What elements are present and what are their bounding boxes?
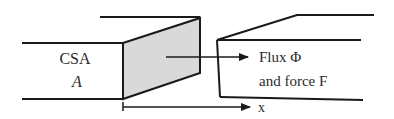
x-axis-label: x <box>258 100 265 115</box>
right-bar-cut-edge <box>217 40 220 97</box>
csa-label: CSA <box>59 50 91 67</box>
right-bar-slanted-top-edge <box>217 15 374 40</box>
right-bar-bottom-edge <box>220 97 363 100</box>
diagram-canvas: CSA A Flux Φ and force F x <box>0 0 394 119</box>
area-symbol-label: A <box>71 73 82 90</box>
flux-label: Flux Φ <box>259 49 301 65</box>
flux-force-diagram: CSA A Flux Φ and force F x <box>0 0 394 119</box>
force-label: and force F <box>259 73 327 89</box>
cross-section-face <box>123 18 200 99</box>
